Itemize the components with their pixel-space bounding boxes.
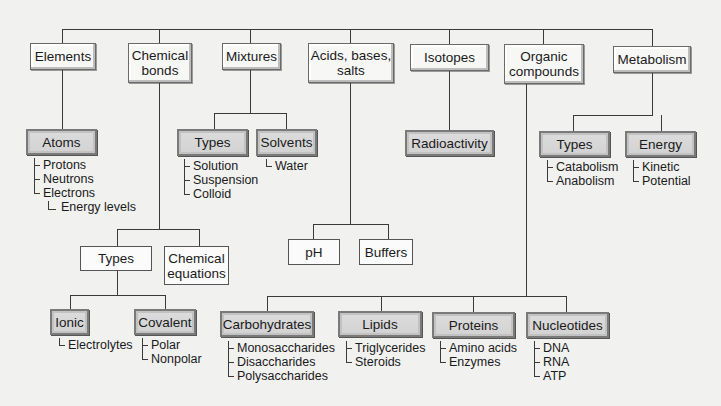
connector: [449, 29, 450, 44]
connector: [473, 296, 474, 312]
connector: [70, 295, 71, 310]
list-item: Colloid: [184, 187, 258, 201]
node-solvents: Solvents: [256, 129, 317, 156]
list-item: DNA: [534, 341, 569, 355]
node-chemical-bonds: Chemical bonds: [128, 43, 192, 83]
list-item: Polysaccharides: [228, 369, 335, 383]
list-item: Kinetic: [633, 160, 691, 174]
list-item: Neutrons: [34, 172, 136, 186]
connector-top: [62, 29, 653, 30]
list-item: Water: [266, 159, 308, 173]
connector: [199, 229, 200, 246]
connector: [214, 113, 215, 129]
chemistry-concept-map: Elements Chemical bonds Mixtures Acids, …: [0, 0, 721, 406]
atoms-sublist: Protons Neutrons Electrons Energy levels: [34, 158, 136, 214]
list-item: Amino acids: [440, 341, 517, 355]
connector: [117, 229, 200, 230]
node-elements: Elements: [30, 43, 96, 70]
node-isotopes: Isotopes: [410, 44, 489, 71]
node-energy: Energy: [625, 131, 696, 157]
proteins-sublist: Amino acids Enzymes: [440, 341, 517, 369]
lipids-sublist: Triglycerides Steroids: [346, 341, 425, 369]
node-atoms: Atoms: [26, 129, 97, 155]
node-bond-types: Types: [80, 246, 152, 271]
node-carbohydrates: Carbohydrates: [220, 311, 314, 337]
connector: [70, 295, 165, 296]
node-ionic: Ionic: [50, 309, 89, 335]
list-item: Disaccharides: [228, 355, 335, 369]
connector: [62, 70, 63, 130]
connector: [250, 70, 251, 114]
connector: [573, 115, 653, 116]
connector: [449, 71, 450, 130]
node-radioactivity: Radioactivity: [405, 130, 494, 156]
mixture-types-sublist: Solution Suspension Colloid: [184, 159, 258, 201]
connector: [267, 296, 567, 297]
list-item-nested: Energy levels: [34, 200, 136, 214]
connector: [350, 83, 351, 225]
connector: [388, 224, 389, 239]
connector: [267, 296, 268, 311]
list-item: Catabolism: [547, 160, 619, 174]
node-proteins: Proteins: [432, 312, 515, 338]
energy-sublist: Kinetic Potential: [633, 160, 691, 188]
node-covalent: Covalent: [134, 309, 196, 335]
nucleotides-sublist: DNA RNA ATP: [534, 341, 569, 383]
list-item: Enzymes: [440, 355, 517, 369]
node-metabolism-types: Types: [539, 131, 610, 157]
node-organic-compounds: Organic compounds: [504, 44, 584, 84]
list-item: Suspension: [184, 173, 258, 187]
connector: [652, 29, 653, 46]
carbohydrates-sublist: Monosaccharides Disaccharides Polysaccha…: [228, 341, 335, 383]
list-item: Nonpolar: [142, 352, 202, 366]
connector: [165, 295, 166, 310]
connector: [661, 115, 662, 131]
connector: [159, 29, 160, 43]
connector: [381, 296, 382, 311]
list-item: Triglycerides: [346, 341, 425, 355]
connector: [286, 113, 287, 129]
connector: [652, 73, 653, 116]
connector: [117, 271, 118, 296]
connector: [250, 29, 251, 43]
list-item: ATP: [534, 369, 569, 383]
node-mixtures: Mixtures: [222, 43, 281, 70]
connector: [543, 29, 544, 44]
list-item: Monosaccharides: [228, 341, 335, 355]
list-item: RNA: [534, 355, 569, 369]
node-lipids: Lipids: [338, 311, 422, 337]
solvents-sublist: Water: [266, 159, 308, 173]
connector: [214, 113, 287, 114]
connector: [566, 296, 567, 312]
node-mixture-types: Types: [177, 129, 248, 156]
connector: [573, 115, 574, 131]
list-item: Electrons: [34, 186, 136, 200]
node-acids-bases-salts: Acids, bases, salts: [308, 43, 394, 83]
connector: [313, 224, 314, 239]
ionic-sublist: Electrolytes: [59, 338, 133, 352]
connector: [526, 84, 527, 297]
node-ph: pH: [288, 239, 340, 265]
connector: [117, 229, 118, 246]
connector: [62, 29, 63, 43]
list-item: Anabolism: [547, 174, 619, 188]
list-item: Potential: [633, 174, 691, 188]
covalent-sublist: Polar Nonpolar: [142, 338, 202, 366]
metabolism-types-sublist: Catabolism Anabolism: [547, 160, 619, 188]
connector: [350, 29, 351, 43]
node-buffers: Buffers: [359, 239, 413, 265]
list-item: Solution: [184, 159, 258, 173]
node-nucleotides: Nucleotides: [526, 312, 609, 338]
node-chemical-equations: Chemical equations: [164, 246, 229, 285]
list-item: Polar: [142, 338, 202, 352]
connector: [313, 224, 389, 225]
list-item: Protons: [34, 158, 136, 172]
list-item: Electrolytes: [59, 338, 133, 352]
connector: [159, 83, 160, 230]
node-metabolism: Metabolism: [613, 46, 691, 73]
list-item: Steroids: [346, 355, 425, 369]
